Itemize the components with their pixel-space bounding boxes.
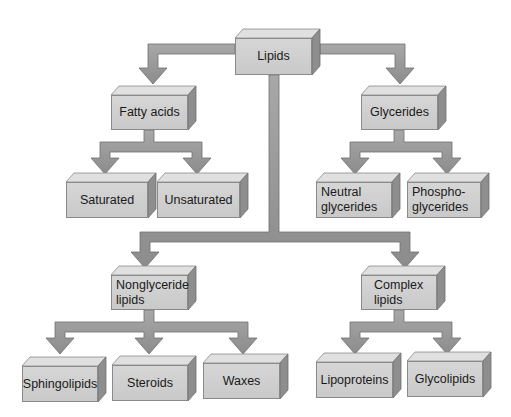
label-line-1: Phospho-: [412, 185, 468, 200]
node-sphingolipids: Sphingolipids: [22, 366, 98, 402]
node-glycerides: Glycerides: [361, 95, 438, 130]
node-waxes: Waxes: [203, 363, 280, 399]
node-saturated: Saturated: [66, 182, 148, 218]
node-steroids: Steroids: [112, 365, 188, 401]
node-phosphoglycerides: Phospho-glycerides: [407, 182, 481, 218]
lipid-classification-diagram: Lipids Fatty acids Glycerides Saturated …: [0, 0, 511, 417]
node-nonglyceride-lipids: Nonglyceridelipids: [111, 275, 188, 310]
node-label: Complexlipids: [361, 275, 437, 310]
node-complex-lipids: Complexlipids: [361, 275, 437, 310]
node-label: Sphingolipids: [22, 366, 98, 402]
node-label: Phospho-glycerides: [407, 182, 481, 218]
node-label: Lipids: [235, 38, 312, 75]
label-line-1: Neutral: [321, 185, 377, 200]
label-line-2: glycerides: [321, 200, 377, 215]
node-label: Nonglyceridelipids: [111, 275, 188, 310]
node-fatty-acids: Fatty acids: [111, 95, 188, 130]
label-line-2: lipids: [116, 293, 189, 308]
node-neutral-glycerides: Neutralglycerides: [316, 182, 392, 218]
node-label: Lipoproteins: [316, 362, 393, 398]
label-line-2: lipids: [374, 293, 423, 308]
node-glycolipids: Glycolipids: [407, 361, 483, 397]
label-line-2: glycerides: [412, 200, 468, 215]
label-line-1: Nonglyceride: [116, 278, 189, 293]
node-label: Steroids: [112, 365, 188, 401]
node-lipoproteins: Lipoproteins: [316, 362, 393, 398]
node-label: Glycerides: [361, 95, 438, 130]
node-label: Saturated: [66, 182, 148, 218]
node-label: Unsaturated: [157, 182, 240, 218]
node-label: Neutralglycerides: [316, 182, 392, 218]
node-lipids: Lipids: [235, 38, 312, 75]
node-label: Waxes: [203, 363, 280, 399]
node-label: Fatty acids: [111, 95, 188, 130]
label-line-1: Complex: [374, 278, 423, 293]
node-label: Glycolipids: [407, 361, 483, 397]
node-unsaturated: Unsaturated: [157, 182, 240, 218]
